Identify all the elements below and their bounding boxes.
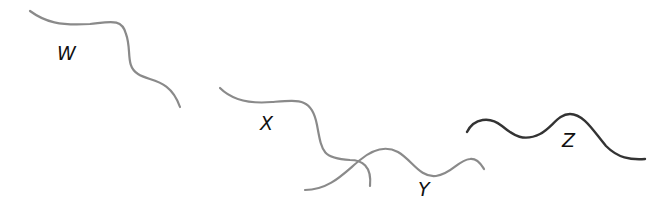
strands-diagram: W X Y Z [0,0,671,210]
label-y: Y [418,178,431,200]
label-w: W [57,42,77,64]
label-x: X [259,112,274,134]
strand-y [305,149,484,190]
label-z: Z [561,129,576,151]
strand-z [467,114,645,159]
strand-w [30,11,180,107]
